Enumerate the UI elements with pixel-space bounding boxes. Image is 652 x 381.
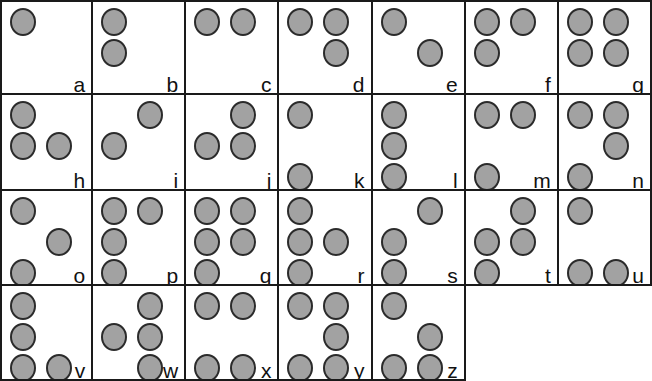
braille-dot-3-icon: [287, 259, 313, 286]
braille-dot-5-icon: [417, 39, 443, 67]
braille-cell-g[interactable]: g: [559, 0, 652, 95]
braille-dot-3-icon: [474, 259, 500, 286]
braille-cell-b[interactable]: b: [93, 0, 186, 95]
braille-cell-k[interactable]: k: [279, 95, 372, 190]
braille-cell-label: q: [260, 265, 272, 286]
braille-dot-1-icon: [567, 8, 593, 36]
braille-cell-a[interactable]: a: [0, 0, 93, 95]
braille-cell-label: p: [167, 265, 179, 286]
braille-dot-4-icon: [230, 197, 256, 225]
braille-cell-m[interactable]: m: [466, 95, 559, 190]
braille-cell-n[interactable]: n: [559, 95, 652, 190]
braille-dot-5-icon: [603, 39, 629, 67]
braille-dot-2-icon: [287, 228, 313, 256]
braille-dot-1-icon: [10, 197, 36, 225]
braille-dot-1-icon: [287, 8, 313, 36]
braille-cell-d[interactable]: d: [279, 0, 372, 95]
braille-cell-w[interactable]: w: [93, 286, 186, 381]
braille-dot-5-icon: [137, 323, 163, 351]
braille-dot-2-icon: [101, 39, 127, 67]
braille-dot-3-icon: [101, 259, 127, 286]
braille-cell-r[interactable]: r: [279, 191, 372, 286]
braille-cell-j[interactable]: j: [186, 95, 279, 190]
braille-cell-l[interactable]: l: [373, 95, 466, 190]
braille-dot-1-icon: [10, 8, 36, 36]
braille-dot-6-icon: [137, 354, 163, 381]
braille-dot-4-icon: [510, 197, 536, 225]
braille-cell-label: x: [261, 360, 272, 381]
braille-dot-2-icon: [474, 228, 500, 256]
braille-cell-t[interactable]: t: [466, 191, 559, 286]
braille-dot-3-icon: [287, 354, 313, 381]
braille-cell-q[interactable]: q: [186, 191, 279, 286]
braille-dot-5-icon: [603, 132, 629, 160]
braille-cell-label: n: [632, 170, 644, 191]
braille-cell-label: o: [73, 265, 85, 286]
braille-cell-z[interactable]: z: [373, 286, 466, 381]
braille-dot-4-icon: [137, 197, 163, 225]
braille-dot-3-icon: [194, 354, 220, 381]
braille-dot-area: [373, 95, 464, 188]
braille-cell-label: z: [447, 360, 458, 381]
braille-dot-3-icon: [474, 163, 500, 190]
braille-cell-label: j: [267, 170, 272, 191]
braille-cell-empty: [466, 286, 559, 381]
braille-dot-3-icon: [381, 259, 407, 286]
braille-cell-x[interactable]: x: [186, 286, 279, 381]
braille-dot-3-icon: [10, 354, 36, 381]
braille-cell-label: w: [163, 360, 178, 381]
braille-alphabet-chart: abcdefghijklmnopqrstuvwxyz: [0, 0, 652, 381]
braille-dot-4-icon: [230, 292, 256, 320]
braille-cell-e[interactable]: e: [373, 0, 466, 95]
braille-cell-label: r: [358, 265, 365, 286]
braille-dot-area: [466, 2, 557, 93]
braille-cell-label: m: [533, 170, 551, 191]
braille-dot-5-icon: [323, 323, 349, 351]
braille-dot-4-icon: [510, 8, 536, 36]
braille-dot-1-icon: [287, 197, 313, 225]
braille-dot-1-icon: [474, 8, 500, 36]
braille-dot-2-icon: [474, 39, 500, 67]
braille-dot-1-icon: [101, 8, 127, 36]
braille-cell-label: a: [73, 74, 85, 95]
braille-cell-empty: [559, 286, 652, 381]
braille-dot-1-icon: [381, 292, 407, 320]
braille-cell-h[interactable]: h: [0, 95, 93, 190]
braille-dot-4-icon: [230, 101, 256, 129]
braille-dot-1-icon: [101, 197, 127, 225]
braille-dot-3-icon: [381, 354, 407, 381]
braille-cell-label: g: [632, 74, 644, 95]
braille-cell-v[interactable]: v: [0, 286, 93, 381]
braille-grid: abcdefghijklmnopqrstuvwxyz: [0, 0, 652, 381]
braille-cell-c[interactable]: c: [186, 0, 279, 95]
braille-dot-2-icon: [567, 39, 593, 67]
braille-dot-1-icon: [567, 101, 593, 129]
braille-cell-label: h: [73, 170, 85, 191]
braille-dot-1-icon: [194, 197, 220, 225]
braille-dot-1-icon: [287, 101, 313, 129]
braille-cell-u[interactable]: u: [559, 191, 652, 286]
braille-dot-4-icon: [323, 292, 349, 320]
braille-dot-1-icon: [10, 101, 36, 129]
braille-dot-3-icon: [567, 259, 593, 286]
braille-dot-6-icon: [323, 354, 349, 381]
braille-dot-1-icon: [567, 197, 593, 225]
braille-cell-y[interactable]: y: [279, 286, 372, 381]
braille-cell-f[interactable]: f: [466, 0, 559, 95]
braille-cell-i[interactable]: i: [93, 95, 186, 190]
braille-dot-5-icon: [46, 132, 72, 160]
braille-cell-label: y: [354, 360, 365, 381]
braille-cell-label: c: [261, 74, 272, 95]
braille-cell-o[interactable]: o: [0, 191, 93, 286]
braille-dot-6-icon: [417, 354, 443, 381]
braille-cell-label: i: [174, 170, 179, 191]
braille-cell-label: b: [167, 74, 179, 95]
braille-dot-6-icon: [603, 259, 629, 286]
braille-cell-s[interactable]: s: [373, 191, 466, 286]
braille-cell-label: f: [545, 74, 551, 95]
braille-cell-p[interactable]: p: [93, 191, 186, 286]
braille-dot-5-icon: [323, 228, 349, 256]
braille-dot-5-icon: [230, 132, 256, 160]
braille-dot-6-icon: [46, 354, 72, 381]
braille-dot-2-icon: [101, 132, 127, 160]
